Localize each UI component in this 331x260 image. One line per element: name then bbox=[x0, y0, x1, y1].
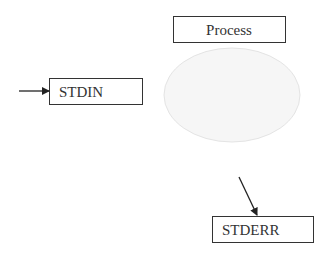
stderr-label: STDERR bbox=[222, 222, 280, 238]
diagram-canvas: Process STDIN STDERR bbox=[0, 0, 331, 260]
process-label: Process bbox=[206, 22, 252, 38]
process-ellipse bbox=[164, 48, 300, 142]
diagram-svg: Process STDIN STDERR bbox=[0, 0, 331, 260]
stdin-box: STDIN bbox=[50, 79, 143, 105]
stdin-label: STDIN bbox=[59, 84, 103, 100]
stderr-arrow bbox=[239, 177, 257, 215]
stderr-box: STDERR bbox=[213, 217, 314, 243]
process-box: Process bbox=[174, 17, 286, 43]
